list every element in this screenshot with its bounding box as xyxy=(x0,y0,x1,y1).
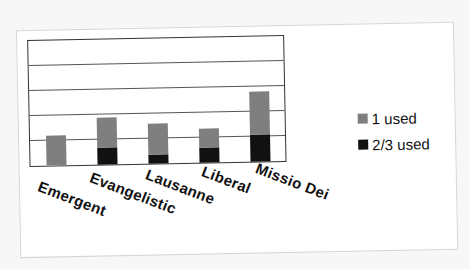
bar-segment-1-used xyxy=(198,129,218,148)
legend-item-2-3-used: 2/3 used xyxy=(358,130,430,157)
gridline xyxy=(29,85,284,91)
gridline xyxy=(29,60,284,66)
photographed-page: Emergent Evangelistic Lausanne Liberal M… xyxy=(0,0,470,269)
legend-item-1-used: 1 used xyxy=(357,104,429,131)
bar-missio-dei xyxy=(249,91,270,161)
bar-lausanne xyxy=(147,123,168,163)
x-axis-labels: Emergent Evangelistic Lausanne Liberal M… xyxy=(30,165,288,230)
legend-swatch-gray xyxy=(358,113,368,123)
legend-swatch-black xyxy=(358,139,368,149)
legend: 1 used 2/3 used xyxy=(357,104,430,157)
bar-liberal xyxy=(198,129,219,163)
bar-segment-2-3-used xyxy=(199,147,219,162)
bar-segment-1-used xyxy=(249,91,270,134)
bar-segment-1-used xyxy=(45,135,66,165)
bar-segment-2-3-used xyxy=(249,134,270,162)
bar-segment-1-used xyxy=(147,123,168,155)
legend-label: 1 used xyxy=(372,109,417,127)
bar-segment-2-3-used xyxy=(97,147,117,165)
bar-segment-2-3-used xyxy=(148,155,168,164)
plot-area xyxy=(27,35,286,167)
bar-evangelistic xyxy=(96,117,117,165)
gridline xyxy=(30,110,285,116)
bar-emergent xyxy=(45,135,66,165)
bar-segment-1-used xyxy=(96,117,117,147)
legend-label: 2/3 used xyxy=(372,135,430,153)
